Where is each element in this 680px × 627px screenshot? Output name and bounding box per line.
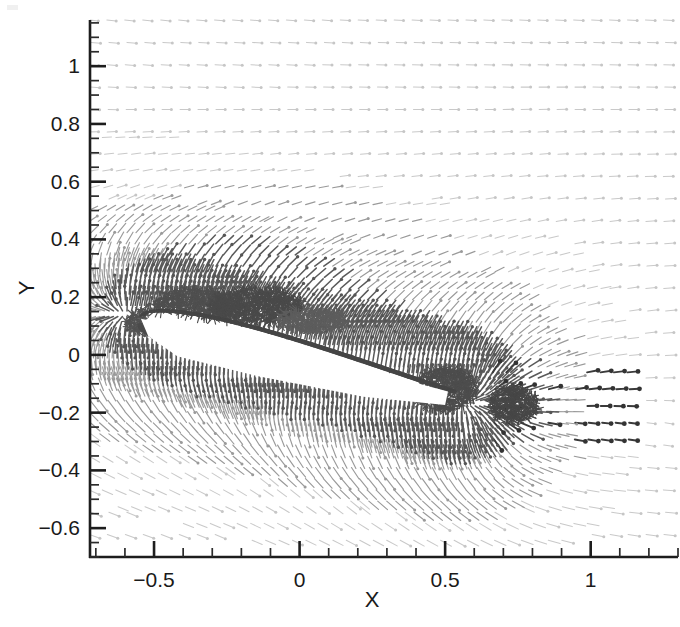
y-tick-label: 1 [68,54,80,77]
x-tick-label: 0.5 [431,568,460,591]
y-tick-label: 0.2 [51,285,80,308]
y-tick-label: 0.4 [51,227,81,250]
velocity-vector-field-figure: −0.6−0.4−0.200.20.40.60.81 −0.500.51 Y X [0,0,680,627]
y-tick-label: −0.2 [39,401,80,424]
y-tick-label: −0.4 [39,458,81,481]
x-tick-label: 0 [294,568,306,591]
y-tick-label: 0.6 [51,170,80,193]
x-tick-label: −0.5 [133,568,174,591]
scan-artifact [7,5,18,10]
x-tick-label: 1 [585,568,597,591]
y-tick-label: 0 [68,343,80,366]
plot-canvas: −0.6−0.4−0.200.20.40.60.81 −0.500.51 Y X [0,0,680,627]
x-axis-title: X [365,587,380,612]
y-tick-label: 0.8 [51,112,80,135]
y-tick-label: −0.6 [39,516,80,539]
y-axis-title: Y [14,280,39,295]
